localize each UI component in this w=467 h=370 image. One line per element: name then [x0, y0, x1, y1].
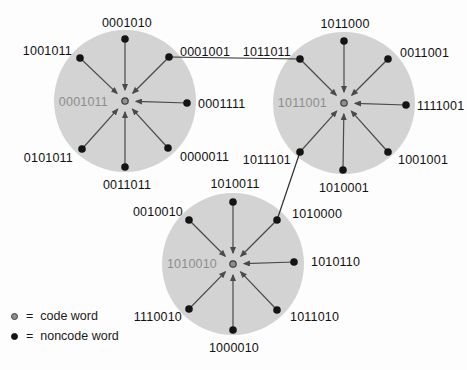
- error-correction-arrow: [343, 114, 344, 170]
- noncode-word-label: 0101011: [24, 151, 73, 165]
- noncode-word-dot: [76, 54, 84, 62]
- noncode-word-label: 0010010: [133, 205, 183, 219]
- noncode-word-dot: [165, 53, 173, 61]
- noncode-word-label: 1011000: [320, 17, 369, 31]
- noncode-word-dot: [273, 306, 281, 314]
- code-word-dot: [230, 261, 236, 267]
- noncode-word-label: 0001001: [180, 45, 230, 59]
- noncode-word-label: 1011101: [243, 153, 291, 167]
- noncode-word-dot: [296, 148, 304, 156]
- legend-item-noncode-word: = noncode word: [11, 329, 119, 343]
- noncode-word-label: 1011011: [243, 45, 291, 59]
- code-word-label: 1011001: [278, 96, 327, 110]
- legend-noncode-word-label: = noncode word: [26, 329, 119, 343]
- noncode-word-label: 1010001: [319, 181, 369, 195]
- code-word-dot: [341, 100, 347, 106]
- noncode-word-label: 1011010: [290, 310, 339, 324]
- noncode-word-label: 1010110: [311, 255, 360, 269]
- noncode-word-dot: [402, 101, 410, 109]
- hamming-code-spheres-figure: 0001010000100100011110000011001101101010…: [0, 0, 467, 370]
- legend-item-code-word: = code word: [11, 309, 119, 323]
- noncode-word-label: 0001111: [198, 97, 245, 111]
- legend-code-word-label: = code word: [26, 309, 98, 323]
- noncode-word-label: 1111001: [417, 99, 464, 113]
- noncode-word-dot: [229, 326, 237, 334]
- code-word-dot-icon: [11, 313, 18, 320]
- noncode-word-label: 1010011: [210, 177, 259, 191]
- noncode-word-dot: [273, 216, 281, 224]
- noncode-word-dot: [384, 148, 392, 156]
- noncode-word-dot-icon: [11, 333, 18, 340]
- noncode-word-dot: [384, 55, 392, 63]
- noncode-word-dot: [340, 37, 348, 45]
- noncode-word-label: 0011001: [400, 46, 449, 60]
- noncode-word-label: 0001010: [102, 16, 152, 30]
- noncode-word-dot: [121, 35, 129, 43]
- noncode-word-dot: [164, 144, 172, 152]
- noncode-word-label: 0000011: [180, 150, 229, 164]
- noncode-word-label: 1001001: [398, 153, 448, 167]
- noncode-word-dot: [185, 305, 193, 313]
- code-word-label: 0001011: [59, 95, 108, 109]
- noncode-word-label: 0011011: [103, 178, 151, 192]
- noncode-word-label: 1001011: [23, 44, 72, 58]
- noncode-word-dot: [185, 216, 193, 224]
- noncode-word-dot: [121, 163, 129, 171]
- noncode-word-dot: [290, 258, 298, 266]
- code-word-dot: [122, 98, 128, 104]
- code-word-label: 1010010: [167, 257, 217, 271]
- legend: = code word = noncode word: [11, 309, 119, 343]
- noncode-word-label: 1010000: [292, 207, 342, 221]
- noncode-word-dot: [339, 166, 347, 174]
- noncode-word-label: 1110010: [134, 310, 182, 324]
- noncode-word-label: 1000010: [209, 341, 259, 355]
- noncode-word-dot: [78, 145, 86, 153]
- noncode-word-dot: [229, 198, 237, 206]
- noncode-word-dot: [296, 55, 304, 63]
- noncode-word-dot: [183, 99, 191, 107]
